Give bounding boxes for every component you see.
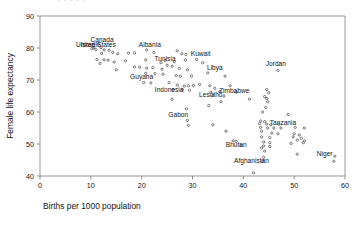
data-point (185, 108, 187, 110)
x-axis-ticks: 0102030405060 (38, 176, 349, 190)
data-point (185, 53, 187, 55)
data-point (264, 95, 266, 97)
data-point (190, 75, 192, 77)
x-tick-label: 20 (138, 181, 146, 190)
point-label: Gabon (168, 111, 188, 118)
data-point (138, 66, 140, 68)
data-point (302, 142, 304, 144)
data-point (171, 98, 173, 100)
data-point (280, 127, 282, 129)
data-point (214, 87, 216, 89)
data-point (103, 49, 105, 51)
data-point (265, 106, 267, 108)
data-point (264, 150, 266, 152)
data-point (296, 153, 298, 155)
data-point (292, 136, 294, 138)
data-point (248, 98, 250, 100)
y-tick-label: 50 (26, 140, 34, 149)
y-tick-label: 90 (26, 12, 34, 21)
data-point (115, 69, 117, 71)
point-label: Afghanistan (234, 157, 269, 165)
data-point (107, 59, 109, 61)
y-tick-label: 40 (26, 172, 34, 181)
point-label: Tanzania (270, 119, 297, 126)
point-label: Albania (139, 41, 161, 48)
data-point (290, 142, 292, 144)
data-point (334, 155, 336, 157)
y-axis-title: Female life expectancy (5, 52, 15, 138)
data-point (296, 139, 298, 141)
data-point (186, 69, 188, 71)
data-point (195, 58, 197, 60)
data-point (224, 75, 226, 77)
data-point (99, 62, 101, 64)
data-points-layer (91, 43, 336, 174)
data-point (258, 122, 260, 124)
data-point (146, 49, 148, 51)
data-point (150, 82, 152, 84)
data-point (175, 74, 177, 76)
data-point (162, 73, 164, 75)
data-point (183, 85, 185, 87)
data-point (133, 52, 135, 54)
data-point (127, 52, 129, 54)
y-tick-label: 60 (26, 108, 34, 117)
data-point (124, 60, 126, 62)
data-point (269, 136, 271, 138)
data-point (225, 130, 227, 132)
data-point (260, 130, 262, 132)
data-point (333, 160, 335, 162)
data-point (108, 49, 110, 51)
data-point (95, 48, 97, 50)
data-point (271, 132, 273, 134)
data-point (303, 127, 305, 129)
data-point (186, 119, 188, 121)
point-label: Libya (207, 64, 223, 72)
data-point (207, 72, 209, 74)
data-point (266, 97, 268, 99)
data-point (103, 59, 105, 61)
point-label: Niger (317, 150, 334, 158)
data-point (259, 120, 261, 122)
data-point (266, 88, 268, 90)
data-point (269, 145, 271, 147)
data-point (192, 84, 194, 86)
data-point (153, 51, 155, 53)
data-point (294, 126, 296, 128)
x-tick-label: 30 (189, 181, 197, 190)
point-label: Israel (81, 41, 98, 48)
data-point (259, 126, 261, 128)
plot-frame (40, 16, 345, 176)
data-point (176, 50, 178, 52)
data-point (260, 147, 262, 149)
data-point (209, 85, 211, 87)
point-label: Tunisia (155, 55, 176, 62)
x-tick-label: 40 (239, 181, 247, 190)
x-tick-label: 10 (87, 181, 95, 190)
point-label: Bhutan (226, 141, 247, 148)
point-label: Jordan (266, 60, 286, 67)
data-point (269, 142, 271, 144)
data-point (202, 62, 204, 64)
data-point (263, 141, 265, 143)
data-point (208, 104, 210, 106)
data-point (220, 101, 222, 103)
data-point (212, 124, 214, 126)
data-point (273, 127, 275, 129)
data-point (179, 75, 181, 77)
data-point (223, 95, 225, 97)
data-point (287, 113, 289, 115)
plot-canvas: 405060708090 0102030405060 CanadaUnited … (0, 0, 360, 228)
data-point (160, 62, 162, 64)
data-point (267, 101, 269, 103)
point-label: Guyana (130, 73, 153, 81)
data-point (112, 51, 114, 53)
data-point (168, 81, 170, 83)
data-point (268, 92, 270, 94)
data-point (300, 137, 302, 139)
data-point (171, 65, 173, 67)
scatter-plot-figure: . . . . . 405060708090 0102030405060 Can… (0, 0, 360, 228)
data-point (260, 136, 262, 138)
x-axis-title: Births per 1000 population (43, 201, 141, 211)
data-point (146, 67, 148, 69)
